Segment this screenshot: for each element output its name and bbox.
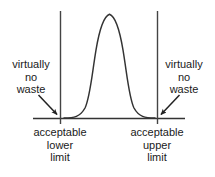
right-waste-arrow bbox=[161, 95, 180, 115]
lower-limit-line-1: acceptable bbox=[13, 126, 107, 139]
right-waste-line-3: waste bbox=[156, 83, 212, 96]
distribution-curve bbox=[64, 14, 155, 118]
right-waste-line-2: no bbox=[156, 71, 212, 84]
upper-limit-label: acceptable upper limit bbox=[110, 126, 204, 164]
left-waste-line-3: waste bbox=[3, 83, 59, 96]
upper-limit-line-1: acceptable bbox=[110, 126, 204, 139]
left-waste-label: virtually no waste bbox=[3, 58, 59, 96]
left-waste-line-2: no bbox=[3, 71, 59, 84]
upper-limit-line-3: limit bbox=[110, 151, 204, 164]
right-waste-line-1: virtually bbox=[156, 58, 212, 71]
upper-limit-line-2: upper bbox=[110, 139, 204, 152]
left-waste-arrow bbox=[39, 95, 58, 115]
process-capability-figure: virtually no waste virtually no waste ac… bbox=[0, 0, 215, 177]
lower-limit-line-3: limit bbox=[13, 151, 107, 164]
lower-limit-line-2: lower bbox=[13, 139, 107, 152]
right-waste-label: virtually no waste bbox=[156, 58, 212, 96]
lower-limit-label: acceptable lower limit bbox=[13, 126, 107, 164]
left-waste-line-1: virtually bbox=[3, 58, 59, 71]
